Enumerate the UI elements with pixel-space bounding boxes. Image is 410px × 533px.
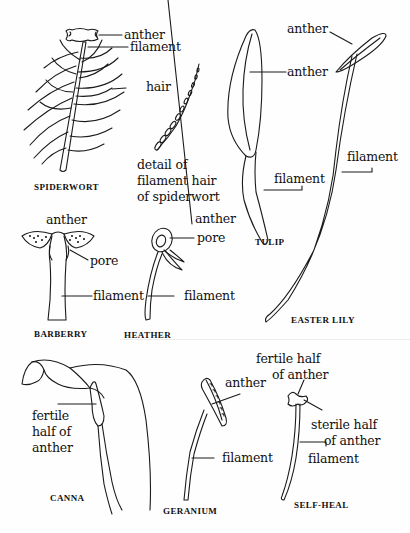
self-heal-drawing (281, 380, 326, 500)
canna-fertile-label-line-2: half of (32, 425, 71, 439)
tulip-name: TULIP (255, 237, 285, 247)
canna-fertile-label-line-1: fertile (32, 409, 69, 423)
canna-name: CANNA (50, 493, 85, 503)
self-heal-filament-label: filament (308, 452, 359, 466)
easter-lily-name: EASTER LILY (291, 315, 355, 325)
spiderwort-hair-label: hair (146, 80, 171, 94)
barberry-pore-label: pore (90, 254, 118, 268)
barberry-name: BARBERRY (34, 329, 87, 339)
geranium-name: GERANIUM (163, 506, 217, 516)
barberry-drawing (22, 231, 94, 320)
geranium-drawing (184, 378, 240, 500)
self-heal-sterile-label-line-2: of anther (324, 434, 380, 448)
hair-detail-caption-line-2: filament hair (137, 174, 216, 188)
spiderwort-filament-label: filament (130, 40, 181, 54)
self-heal-sterile-label-line-1: sterile half (311, 418, 377, 432)
self-heal-name: SELF-HEAL (294, 500, 349, 510)
hair-detail-caption-line-3: of spiderwort (137, 190, 220, 204)
stamen-diagram: anther filament hair SPIDERWORT detail o… (0, 0, 410, 533)
easter-lily-filament-label: filament (347, 150, 398, 164)
tulip-drawing (228, 30, 302, 244)
hair-detail-caption-line-1: detail of (137, 158, 187, 172)
tulip-filament-label: filament (274, 172, 325, 186)
heather-name: HEATHER (124, 330, 171, 340)
heather-anther-label: anther (195, 212, 236, 226)
barberry-filament-label: filament (93, 289, 144, 303)
tulip-anther-label: anther (287, 65, 328, 79)
spiderwort-name: SPIDERWORT (34, 182, 99, 192)
geranium-filament-label: filament (222, 451, 273, 465)
heather-filament-label: filament (184, 289, 235, 303)
heather-pore-label: pore (197, 231, 225, 245)
canna-fertile-label-line-3: anther (32, 441, 73, 455)
geranium-anther-label: anther (225, 376, 266, 390)
self-heal-fertile-label-line-1: fertile half (256, 352, 320, 366)
barberry-anther-label: anther (46, 213, 87, 227)
spiderwort-drawing (24, 29, 128, 172)
easter-lily-anther-label: anther (287, 22, 328, 36)
self-heal-fertile-label-line-2: of anther (272, 368, 328, 382)
